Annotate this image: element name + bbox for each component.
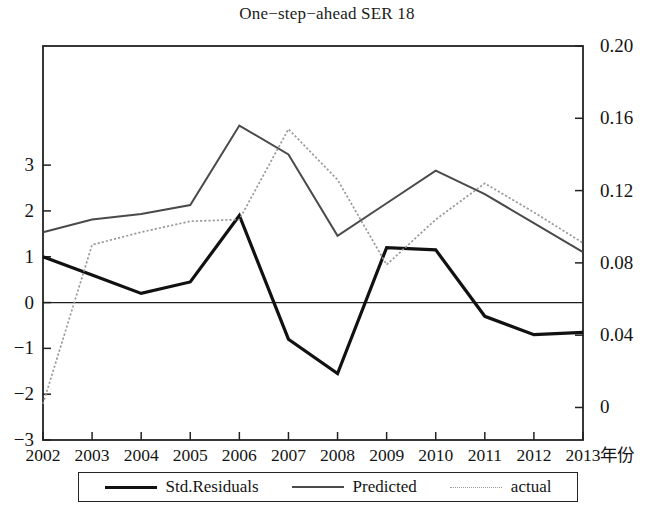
- legend-item-label: Std.Residuals: [166, 477, 259, 497]
- solid-thick-line-icon: [105, 486, 157, 489]
- data-series-group: [43, 126, 583, 404]
- right-axis-tick-label: 0.16: [600, 108, 633, 127]
- plot-frame: [43, 46, 583, 440]
- legend-item-label: Predicted: [353, 477, 417, 497]
- right-axis-tick-label: 0: [600, 397, 610, 416]
- solid-medium-line-icon: [292, 486, 344, 488]
- legend-item[interactable]: Std.Residuals: [105, 477, 259, 497]
- x-axis-tick-label: 2007: [265, 447, 311, 465]
- right-axis-tick-label: 0.04: [600, 325, 633, 344]
- x-axis-tick-label: 2010: [413, 447, 459, 465]
- left-axis-tick-label: 3: [0, 155, 34, 174]
- x-axis-tick-label: 2004: [118, 447, 164, 465]
- x-axis-title: 年份: [600, 447, 634, 465]
- x-axis-tick-label: 2008: [315, 447, 361, 465]
- series-line-predicted: [43, 126, 583, 253]
- x-axis-tick-label: 2006: [216, 447, 262, 465]
- left-axis-tick-label: 2: [0, 201, 34, 220]
- legend-item-label: actual: [511, 477, 552, 497]
- plot-area: [0, 0, 654, 505]
- right-axis-tick-label: 0.20: [600, 36, 633, 55]
- series-line-std-residuals: [43, 216, 583, 374]
- axis-ticks: [43, 46, 583, 440]
- x-axis-tick-label: 2009: [364, 447, 410, 465]
- chart-figure: One−step−ahead SER 18 3210−1−2−3 0.200.1…: [0, 0, 654, 505]
- x-axis-tick-label: 2011: [462, 447, 508, 465]
- series-line-actual: [43, 129, 583, 404]
- right-axis-tick-label: 0.08: [600, 253, 633, 272]
- left-axis-tick-label: 0: [0, 293, 34, 312]
- right-axis-tick-label: 0.12: [600, 181, 633, 200]
- plot-frame-rect: [43, 46, 583, 440]
- legend-item[interactable]: actual: [450, 477, 552, 497]
- x-axis-tick-label: 2003: [69, 447, 115, 465]
- dotted-light-line-icon: [450, 487, 502, 488]
- chart-legend: Std.ResidualsPredictedactual: [78, 472, 578, 502]
- left-axis-tick-label: −1: [0, 338, 34, 357]
- x-axis-tick-label: 2005: [167, 447, 213, 465]
- left-axis-tick-label: 1: [0, 247, 34, 266]
- legend-item[interactable]: Predicted: [292, 477, 417, 497]
- left-axis-tick-label: −2: [0, 384, 34, 403]
- x-axis-tick-label: 2002: [20, 447, 66, 465]
- x-axis-tick-label: 2012: [511, 447, 557, 465]
